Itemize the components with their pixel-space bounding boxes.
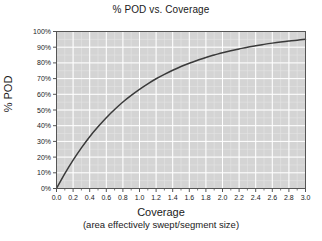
svg-text:3.0: 3.0 xyxy=(301,194,311,201)
svg-text:60%: 60% xyxy=(37,91,51,98)
svg-text:1.0: 1.0 xyxy=(135,194,145,201)
svg-text:0%: 0% xyxy=(41,185,51,192)
svg-text:0.0: 0.0 xyxy=(52,194,62,201)
svg-text:1.8: 1.8 xyxy=(201,194,211,201)
y-axis-tick-labels: 0%10%20%30%40%50%60%70%80%90%100% xyxy=(33,28,51,192)
svg-text:2.0: 2.0 xyxy=(218,194,228,201)
x-axis-title-block: Coverage (area effectively swept/segment… xyxy=(0,206,322,231)
svg-text:90%: 90% xyxy=(37,44,51,51)
svg-text:2.2: 2.2 xyxy=(234,194,244,201)
plot-area: 0.00.20.40.60.81.01.21.41.61.82.02.22.42… xyxy=(0,0,322,241)
x-axis-title: Coverage xyxy=(0,206,322,219)
svg-text:0.8: 0.8 xyxy=(118,194,128,201)
svg-text:40%: 40% xyxy=(37,122,51,129)
svg-text:30%: 30% xyxy=(37,138,51,145)
svg-text:1.4: 1.4 xyxy=(168,194,178,201)
svg-text:0.2: 0.2 xyxy=(68,194,78,201)
svg-text:1.2: 1.2 xyxy=(151,194,161,201)
x-axis-tick-labels: 0.00.20.40.60.81.01.21.41.61.82.02.22.42… xyxy=(52,194,311,201)
svg-text:10%: 10% xyxy=(37,169,51,176)
svg-text:0.6: 0.6 xyxy=(101,194,111,201)
svg-text:1.6: 1.6 xyxy=(184,194,194,201)
svg-text:2.6: 2.6 xyxy=(267,194,277,201)
chart-figure: % POD vs. Coverage % POD 0.00.20.40.60.8… xyxy=(0,0,322,241)
svg-text:2.8: 2.8 xyxy=(284,194,294,201)
svg-text:50%: 50% xyxy=(37,107,51,114)
svg-text:0.4: 0.4 xyxy=(85,194,95,201)
svg-text:70%: 70% xyxy=(37,75,51,82)
svg-text:20%: 20% xyxy=(37,154,51,161)
x-axis-subtitle: (area effectively swept/segment size) xyxy=(0,219,322,231)
svg-text:80%: 80% xyxy=(37,59,51,66)
svg-text:2.4: 2.4 xyxy=(251,194,261,201)
svg-text:100%: 100% xyxy=(33,28,51,35)
